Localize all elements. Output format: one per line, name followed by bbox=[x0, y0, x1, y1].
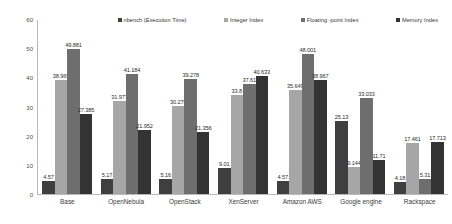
bar[interactable]: 41.184 bbox=[126, 74, 139, 194]
bar-value-label: 25.13 bbox=[335, 114, 349, 120]
bar[interactable]: 37.61 bbox=[243, 84, 256, 194]
bar-slot: 48.001 bbox=[302, 20, 315, 194]
bar-slot: 39.278 bbox=[184, 20, 197, 194]
bar-value-label: 21.952 bbox=[136, 123, 153, 129]
bar[interactable]: 27.385 bbox=[80, 114, 93, 194]
bar-slot: 5.16 bbox=[159, 20, 172, 194]
bar[interactable]: 17.713 bbox=[431, 142, 444, 194]
y-tick-label: 50 bbox=[26, 46, 33, 52]
x-axis-labels: BaseOpenNebulaOpenStackXenServerAmazon A… bbox=[38, 198, 449, 205]
bar-value-label: 4.57 bbox=[43, 174, 54, 180]
bar-slot: 40.633 bbox=[256, 20, 269, 194]
bar-group: 5.1630.27539.27821.356 bbox=[155, 20, 214, 194]
x-tick-label: OpenNebula bbox=[97, 198, 156, 205]
bar[interactable]: 38.967 bbox=[314, 80, 327, 194]
y-tick-label: 10 bbox=[26, 163, 33, 169]
bar[interactable]: 5.31 bbox=[419, 179, 432, 194]
bar-slot: 9.01 bbox=[218, 20, 231, 194]
bar[interactable]: 33.033 bbox=[360, 98, 373, 194]
x-tick-label: Amazon AWS bbox=[273, 198, 332, 205]
bar-slot: 4.18 bbox=[394, 20, 407, 194]
bar-value-label: 38.967 bbox=[312, 73, 329, 79]
bar-value-label: 37.61 bbox=[243, 77, 257, 83]
bar-slot: 33.8 bbox=[231, 20, 244, 194]
bar-slot: 21.356 bbox=[197, 20, 210, 194]
x-tick-label: OpenStack bbox=[155, 198, 214, 205]
bar[interactable]: 33.8 bbox=[231, 95, 244, 194]
bar-group: 4.1817.4615.3117.713 bbox=[389, 20, 448, 194]
x-axis-line bbox=[37, 194, 448, 195]
bar-value-label: 9.01 bbox=[219, 161, 230, 167]
bar[interactable]: 39.278 bbox=[184, 79, 197, 194]
bar-group: 4.5738.96949.88127.385 bbox=[38, 20, 97, 194]
bar-value-label: 5.16 bbox=[160, 172, 171, 178]
bar-value-label: 17.713 bbox=[429, 135, 446, 141]
bar-slot: 5.31 bbox=[419, 20, 432, 194]
bar[interactable]: 49.881 bbox=[67, 49, 80, 194]
bar-chart: nbench (Execution Time) Integer Index Fl… bbox=[0, 0, 452, 224]
bar[interactable]: 25.13 bbox=[335, 121, 348, 194]
bar[interactable]: 4.57 bbox=[42, 181, 55, 194]
bar-slot: 27.385 bbox=[80, 20, 93, 194]
bar-value-label: 21.356 bbox=[195, 125, 212, 131]
y-tick-label: 0 bbox=[30, 192, 33, 198]
bar-group: 5.1731.97741.18421.952 bbox=[97, 20, 156, 194]
bar-value-label: 5.17 bbox=[102, 172, 113, 178]
bar[interactable]: 9.144 bbox=[348, 167, 361, 194]
plot-area: 0102030405060 4.5738.96949.88127.3855.17… bbox=[37, 20, 448, 195]
x-tick-label: Rackspace bbox=[390, 198, 449, 205]
x-tick-label: Google engine bbox=[332, 198, 391, 205]
bar-slot: 5.17 bbox=[101, 20, 114, 194]
bar-value-label: 40.633 bbox=[254, 69, 271, 75]
bar-slot: 17.713 bbox=[431, 20, 444, 194]
bar-value-label: 27.385 bbox=[78, 107, 95, 113]
bar-value-label: 5.31 bbox=[420, 172, 431, 178]
bar[interactable]: 11.71 bbox=[373, 160, 386, 194]
bar-slot: 25.13 bbox=[335, 20, 348, 194]
y-tick-label: 30 bbox=[26, 105, 33, 111]
y-tick-label: 40 bbox=[26, 75, 33, 81]
bar-slot: 17.461 bbox=[406, 20, 419, 194]
bar[interactable]: 30.275 bbox=[172, 106, 185, 194]
bar-slot: 21.952 bbox=[138, 20, 151, 194]
bar-slot: 33.033 bbox=[360, 20, 373, 194]
bar-groups: 4.5738.96949.88127.3855.1731.97741.18421… bbox=[38, 20, 448, 194]
y-tick-label: 20 bbox=[26, 134, 33, 140]
bar-slot: 37.61 bbox=[243, 20, 256, 194]
bar[interactable]: 35.649 bbox=[289, 90, 302, 194]
bar-value-label: 4.57 bbox=[278, 174, 289, 180]
bar-group: 25.139.14433.03311.71 bbox=[331, 20, 390, 194]
bar-group: 4.5735.64948.00138.967 bbox=[272, 20, 331, 194]
bar-value-label: 9.144 bbox=[347, 160, 361, 166]
bar[interactable]: 9.01 bbox=[218, 168, 231, 194]
bar[interactable]: 4.18 bbox=[394, 182, 407, 194]
bar-value-label: 33.8 bbox=[232, 88, 243, 94]
bar-slot: 4.57 bbox=[42, 20, 55, 194]
y-tick-label: 60 bbox=[26, 17, 33, 23]
bar-slot: 41.184 bbox=[126, 20, 139, 194]
bar[interactable]: 5.16 bbox=[159, 179, 172, 194]
bar-value-label: 4.18 bbox=[395, 175, 406, 181]
bar-slot: 9.144 bbox=[348, 20, 361, 194]
bar[interactable]: 5.17 bbox=[101, 179, 114, 194]
bar-group: 9.0133.837.6140.633 bbox=[214, 20, 273, 194]
bar-slot: 30.275 bbox=[172, 20, 185, 194]
bar-slot: 31.977 bbox=[113, 20, 126, 194]
x-tick-label: Base bbox=[38, 198, 97, 205]
bar[interactable]: 21.356 bbox=[197, 132, 210, 194]
bar[interactable]: 17.461 bbox=[406, 143, 419, 194]
bar-slot: 38.967 bbox=[314, 20, 327, 194]
bar[interactable]: 21.952 bbox=[138, 130, 151, 194]
bar[interactable]: 31.977 bbox=[113, 101, 126, 194]
bar-value-label: 11.71 bbox=[372, 153, 385, 159]
bar-slot: 4.57 bbox=[277, 20, 290, 194]
bar-slot: 11.71 bbox=[373, 20, 386, 194]
bar[interactable]: 40.633 bbox=[256, 76, 269, 195]
x-tick-label: XenServer bbox=[214, 198, 273, 205]
bar[interactable]: 4.57 bbox=[277, 181, 290, 194]
bar[interactable]: 38.969 bbox=[55, 80, 68, 194]
